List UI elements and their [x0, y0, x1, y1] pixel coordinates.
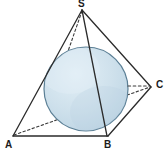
vertex-label-C: C	[156, 80, 163, 90]
geometry-figure: S A B C	[0, 0, 168, 155]
vertex-label-B: B	[104, 140, 111, 150]
vertex-label-S: S	[78, 0, 85, 9]
tetrahedron-sphere-svg	[0, 0, 168, 155]
vertex-label-A: A	[5, 140, 12, 150]
